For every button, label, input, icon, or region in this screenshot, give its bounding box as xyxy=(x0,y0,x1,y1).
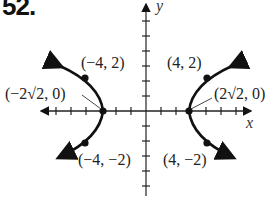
y-axis-label: y xyxy=(156,0,163,15)
y-axis xyxy=(142,5,150,196)
label-upper-left: (−4, 2) xyxy=(81,55,125,71)
label-vertex-right: (2√2, 0) xyxy=(214,86,265,102)
x-axis-label: x xyxy=(246,114,253,132)
label-lower-right: (4, −2) xyxy=(163,152,207,168)
label-vertex-left: (−2√2, 0) xyxy=(5,86,65,102)
figure: 52. xyxy=(0,0,280,198)
label-lower-left: (−4, −2) xyxy=(78,152,131,168)
label-upper-right: (4, 2) xyxy=(167,55,202,71)
